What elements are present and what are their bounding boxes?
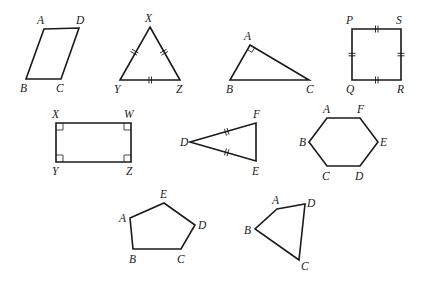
vertex-label-b: B — [226, 83, 233, 95]
vertex-label-b: B — [299, 136, 306, 148]
vertex-label-c: C — [301, 260, 309, 272]
vertex-label-e: E — [251, 165, 259, 177]
hexagon-shape — [309, 118, 378, 166]
vertex-label-d: D — [306, 197, 316, 209]
vertex-label-w: W — [124, 108, 135, 120]
triangle-def: D F E — [179, 108, 261, 177]
vertex-label-f: F — [356, 103, 365, 115]
triangle-abc-shape — [230, 45, 309, 80]
triangle-abc: A C B — [226, 30, 314, 95]
vertex-label-s: S — [396, 14, 402, 26]
parallelogram-shape — [26, 28, 79, 79]
vertex-label-c: C — [177, 253, 185, 265]
vertex-label-a: A — [36, 14, 45, 26]
vertex-label-x: X — [144, 12, 153, 24]
vertex-label-a: A — [322, 103, 331, 115]
vertex-label-a: A — [118, 212, 127, 224]
vertex-label-b: B — [129, 253, 136, 265]
polygons-diagram: A D C B X Z Y A C B — [0, 0, 426, 282]
vertex-label-a: A — [243, 30, 252, 42]
triangle-xyz: X Z Y — [114, 12, 183, 95]
vertex-label-f: F — [252, 108, 261, 120]
vertex-label-y: Y — [52, 165, 60, 177]
vertex-label-d: D — [197, 219, 207, 231]
vertex-label-c: C — [306, 83, 314, 95]
right-angle-markers — [56, 123, 131, 162]
vertex-label-z: Z — [126, 165, 133, 177]
vertex-label-c: C — [322, 170, 330, 182]
rectangle-shape — [56, 123, 131, 162]
vertex-label-y: Y — [114, 83, 122, 95]
vertex-label-p: P — [345, 14, 353, 26]
quadrilateral-abcd: A D C B — [244, 194, 316, 272]
triangle-def-shape — [190, 123, 256, 161]
hexagon-abcdef: A F E D C B — [299, 103, 387, 182]
pentagon-abcde: E D C B A — [118, 188, 207, 265]
vertex-label-z: Z — [176, 83, 183, 95]
triangle-xyz-shape — [120, 27, 180, 80]
square-shape — [352, 29, 401, 80]
vertex-label-r: R — [396, 83, 404, 95]
pentagon-shape — [130, 203, 195, 249]
vertex-label-d: D — [354, 170, 364, 182]
vertex-label-e: E — [379, 136, 387, 148]
parallelogram-abcd: A D C B — [20, 14, 85, 94]
vertex-label-x: X — [51, 108, 60, 120]
congruent-ticks — [349, 26, 405, 84]
vertex-label-b: B — [244, 224, 251, 236]
vertex-label-b: B — [20, 82, 27, 94]
square-pqrs: P S R Q — [345, 14, 405, 95]
congruent-ticks — [131, 49, 169, 83]
quadrilateral-shape — [255, 204, 305, 260]
vertex-label-d: D — [75, 14, 85, 26]
vertex-label-a: A — [271, 194, 280, 206]
vertex-label-e: E — [159, 188, 167, 200]
vertex-label-q: Q — [346, 83, 355, 95]
rectangle-xwzy: X W Z Y — [51, 108, 135, 177]
vertex-label-c: C — [56, 82, 64, 94]
vertex-label-d: D — [179, 136, 189, 148]
